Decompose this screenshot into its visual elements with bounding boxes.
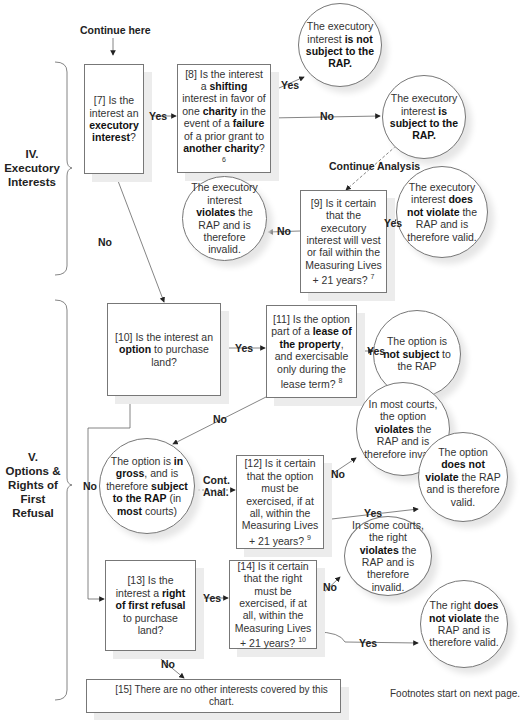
q10-text: [10] Is the interest an — [115, 331, 213, 343]
question-10-box: [10] Is the interest an option to purcha… — [107, 303, 221, 396]
edge-cont-anal: Cont. Anal. — [203, 474, 230, 498]
r6-text-4: courts) — [142, 505, 177, 517]
q8-text-5: ? — [259, 142, 265, 154]
r9-bold: violates — [360, 544, 399, 556]
question-12-box: [12] Is it certain that the option must … — [236, 455, 324, 549]
section-v-title-4: Refusal — [2, 506, 64, 520]
section-v-title-3: First — [2, 492, 64, 506]
q8-bold-1: shifting — [209, 80, 247, 92]
section-v-title-1: Options & — [2, 464, 64, 478]
r9-text: In some courts, the right — [352, 519, 424, 543]
question-14-box: [14] Is it certain that the right must b… — [229, 560, 317, 649]
continue-analysis-label: Continue Analysis — [329, 160, 420, 172]
cont-label: Cont. — [203, 474, 230, 486]
r8-text: The option — [438, 446, 488, 458]
edge-q14-no: No — [323, 581, 337, 593]
r7-bold: violates — [375, 423, 414, 435]
edge-q7-no: No — [98, 236, 112, 248]
q7-post: ? — [130, 131, 136, 143]
r5-text: The option is — [387, 335, 447, 347]
section-iv-number: IV. — [2, 147, 62, 161]
section-v-label: V. Options & Rights of First Refusal — [2, 450, 64, 520]
question-7-box: [7] Is the interest an executory interes… — [84, 64, 144, 174]
r6-bold-3: most — [117, 505, 142, 517]
question-13-box: [13] Is the interest a right of first re… — [105, 560, 196, 651]
section-v-number: V. — [2, 450, 64, 464]
result-exec-valid: The executory interest does not violate … — [396, 166, 488, 258]
edge-q14-yes: Yes — [359, 637, 377, 649]
edge-q10-no: No — [83, 480, 97, 492]
section-v-title-2: Rights of — [2, 478, 64, 492]
result-exec-is-subject: The executory interest is subject to the… — [382, 75, 466, 159]
result-right-valid: The right does not violate the RAP and i… — [420, 580, 508, 668]
r3-bold: violates — [196, 206, 235, 218]
edge-q10-yes: Yes — [235, 342, 253, 354]
q8-text-4: of a prior grant to — [184, 130, 264, 142]
q9-footnote: 7 — [371, 273, 375, 280]
edge-q7-yes: Yes — [149, 110, 167, 122]
r2-text: The executory interest — [391, 92, 458, 116]
end-box-15: [15] There are no other interests covere… — [86, 679, 341, 713]
footnotes-note: Footnotes start on next page. — [390, 688, 520, 699]
q10-post: to purchase land? — [151, 343, 209, 367]
edge-q8-no: No — [320, 110, 334, 122]
continue-here-label: Continue here — [80, 24, 151, 36]
edge-q11-no: No — [213, 413, 227, 425]
r5-bold: not subject — [383, 348, 439, 360]
r10-text: The right — [430, 599, 474, 611]
q8-footnote: 6 — [222, 156, 226, 163]
anal-label: Anal. — [203, 486, 230, 498]
r6-text-1: The option is — [111, 455, 174, 467]
section-iv-label: IV. Executory Interests — [2, 147, 62, 189]
section-iv-title-1: Executory — [2, 161, 62, 175]
question-8-box: [8] Is the interest a shifting interest … — [177, 64, 271, 173]
q11-footnote: 8 — [338, 377, 342, 384]
edge-q9-no: No — [277, 225, 291, 237]
r3-text: The executory interest — [191, 181, 258, 205]
end15-text: [15] There are no other interests covere… — [107, 684, 336, 709]
section-iv-title-2: Interests — [2, 175, 62, 189]
edge-q12-yes: Yes — [364, 507, 382, 519]
result-option-in-gross: The option is in gross, and is therefore… — [99, 438, 195, 534]
result-exec-not-subject: The executory interest is not subject to… — [298, 3, 382, 87]
result-exec-violates: The executory interest violates the RAP … — [182, 176, 267, 261]
q10-bold: option — [119, 343, 151, 355]
q12-footnote: 9 — [307, 534, 311, 541]
result-option-valid: The option does not violate the RAP and … — [418, 432, 508, 522]
edge-q12-no: No — [331, 468, 345, 480]
edge-q13-yes: Yes — [203, 592, 221, 604]
q8-bold-3: failure — [233, 117, 265, 129]
question-11-box: [11] Is the option part of a lease of th… — [266, 305, 357, 398]
edge-q11-yes: Yes — [367, 345, 385, 357]
result-right-violates: In some courts, the right violates the R… — [344, 516, 432, 596]
edge-q9-yes: Yes — [384, 217, 402, 229]
q7-text: [7] Is the interest an — [89, 94, 138, 118]
edge-q8-yes: Yes — [281, 79, 299, 91]
r7-text: In most courts, the option — [369, 398, 438, 422]
r6-text-3: (in — [167, 492, 182, 504]
q14-footnote: 10 — [298, 636, 306, 643]
q8-bold-2: charity — [203, 105, 237, 117]
edge-q13-no: No — [161, 658, 175, 670]
question-9-box: [9] Is it certain that the executory int… — [300, 190, 387, 293]
q8-bold-4: another charity — [183, 142, 259, 154]
q13-post: to purchase land? — [123, 612, 178, 636]
